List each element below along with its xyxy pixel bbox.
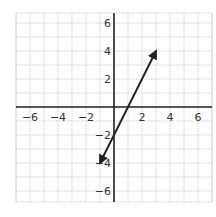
- x-tick-label: 4: [167, 111, 174, 124]
- x-tick-label: 2: [139, 111, 146, 124]
- x-tick-label: −2: [78, 111, 94, 124]
- y-tick-label: 4: [104, 45, 111, 58]
- x-tick-label: −4: [50, 111, 66, 124]
- x-tick-label: −6: [22, 111, 38, 124]
- coordinate-plane: −6−4−2246642−2−4−6: [0, 0, 216, 217]
- axes: [16, 13, 212, 202]
- x-tick-label: 6: [195, 111, 202, 124]
- y-tick-label: −6: [95, 185, 111, 198]
- y-tick-label: 2: [104, 73, 111, 86]
- y-tick-label: −2: [95, 129, 111, 142]
- y-tick-label: 6: [104, 17, 111, 30]
